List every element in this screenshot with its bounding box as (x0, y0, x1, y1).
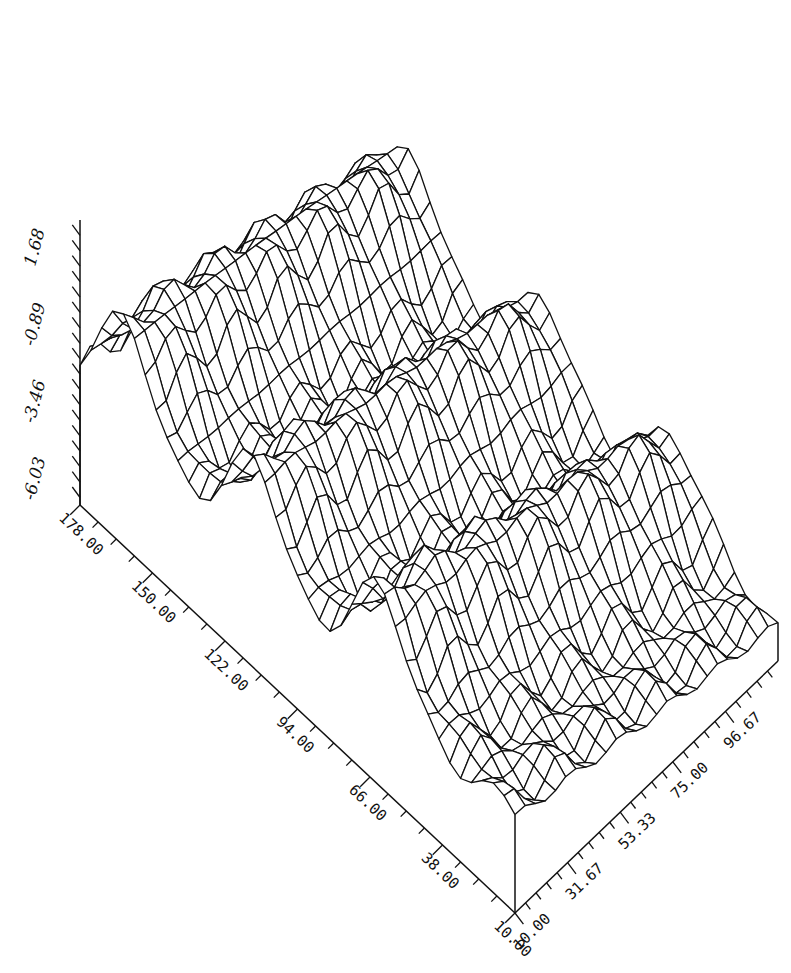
z-minor-tick (72, 348, 80, 359)
z-minor-tick (72, 317, 80, 328)
x-minor-tick (683, 752, 688, 758)
y-minor-tick (491, 896, 497, 902)
x-minor-tick (610, 822, 615, 828)
z-minor-tick (72, 487, 80, 498)
x-minor-tick (578, 853, 583, 859)
z-minor-tick (72, 271, 80, 282)
x-major-tick (725, 711, 733, 722)
z-minor-tick (72, 287, 80, 298)
surface-mesh (80, 147, 778, 913)
y-minor-tick (201, 624, 207, 630)
x-minor-tick (746, 691, 751, 697)
z-tick-label: -3.46 (19, 377, 50, 424)
x-minor-tick (704, 732, 709, 738)
x-minor-tick (694, 742, 699, 748)
x-minor-tick (631, 802, 636, 808)
x-minor-tick (662, 772, 667, 778)
y-minor-tick (401, 811, 407, 817)
surface-chart: 10.0031.6753.3375.0096.6710.0038.0066.00… (0, 0, 791, 973)
y-minor-tick (383, 794, 389, 800)
y-minor-tick (310, 726, 316, 732)
y-tick-label: 122.00 (200, 645, 252, 695)
x-minor-tick (589, 842, 594, 848)
x-minor-tick (526, 903, 531, 909)
z-minor-tick (72, 333, 80, 344)
y-minor-tick (256, 675, 262, 681)
z-minor-tick (72, 456, 80, 467)
z-tick-label: -6.03 (19, 455, 50, 502)
y-minor-tick (455, 862, 461, 868)
x-minor-tick (715, 721, 720, 727)
y-tick-label: 150.00 (128, 577, 180, 627)
x-tick-label: 31.67 (562, 859, 607, 903)
y-tick-label: 66.00 (345, 781, 390, 825)
y-minor-tick (238, 658, 244, 664)
z-minor-tick (72, 364, 80, 375)
y-minor-tick (328, 743, 334, 749)
x-major-tick (673, 762, 681, 773)
y-minor-tick (93, 522, 99, 528)
x-tick-label: 53.33 (615, 809, 660, 853)
z-minor-tick (72, 240, 80, 251)
x-minor-tick (599, 832, 604, 838)
x-minor-tick (652, 782, 657, 788)
y-minor-tick (129, 556, 135, 562)
z-minor-tick (72, 379, 80, 390)
x-tick-label: 96.67 (720, 708, 765, 752)
x-minor-tick (757, 681, 762, 687)
x-minor-tick (768, 671, 773, 677)
y-minor-tick (111, 539, 117, 545)
y-tick-label: 178.00 (55, 509, 107, 559)
z-tick-label: -0.89 (19, 300, 50, 347)
x-minor-tick (547, 883, 552, 889)
y-minor-tick (183, 607, 189, 613)
y-minor-tick (473, 879, 479, 885)
x-minor-tick (536, 893, 541, 899)
surface-cell (80, 344, 101, 366)
x-major-tick (620, 812, 628, 823)
z-minor-tick (72, 425, 80, 436)
z-minor-tick (72, 302, 80, 313)
x-major-tick (515, 913, 523, 924)
x-tick-label: 75.00 (667, 758, 712, 802)
z-minor-tick (72, 410, 80, 421)
x-minor-tick (736, 701, 741, 707)
x-minor-tick (557, 873, 562, 879)
x-minor-tick (641, 792, 646, 798)
z-minor-tick (72, 394, 80, 405)
y-minor-tick (346, 760, 352, 766)
y-minor-tick (419, 828, 425, 834)
y-minor-tick (274, 692, 280, 698)
z-minor-tick (72, 472, 80, 483)
z-minor-tick (72, 256, 80, 267)
y-tick-label: 38.00 (418, 849, 463, 893)
z-tick-label: 1.68 (20, 226, 49, 268)
z-minor-tick (72, 441, 80, 452)
z-minor-tick (72, 225, 80, 236)
x-major-tick (568, 863, 576, 874)
y-tick-label: 94.00 (273, 713, 318, 757)
y-minor-tick (165, 590, 171, 596)
